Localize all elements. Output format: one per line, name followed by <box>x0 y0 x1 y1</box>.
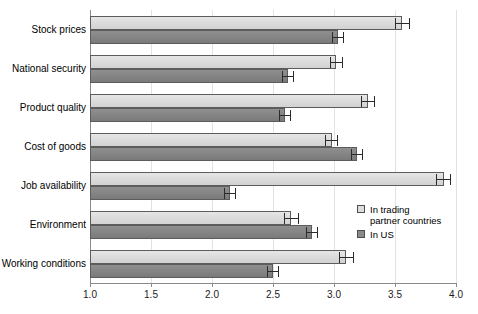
x-tick <box>395 283 396 287</box>
bar <box>90 94 368 108</box>
bar <box>90 186 230 200</box>
legend-swatch-icon <box>357 230 365 238</box>
x-tick-label: 3.5 <box>388 289 402 300</box>
x-tick <box>90 283 91 287</box>
category-label: Stock prices <box>0 24 86 35</box>
error-bar <box>224 188 236 199</box>
bar <box>90 147 357 161</box>
x-tick <box>334 283 335 287</box>
error-bar <box>332 32 344 43</box>
x-tick-label: 1.5 <box>144 289 158 300</box>
bar <box>90 225 312 239</box>
error-bar <box>306 227 318 238</box>
bar <box>90 16 402 30</box>
bar <box>90 250 346 264</box>
legend-label: In trading partner countries <box>357 204 441 226</box>
bar-chart: 1.01.52.02.53.03.54.0 Stock pricesNation… <box>0 0 478 314</box>
category-label: Job availability <box>0 180 86 191</box>
x-tick-label: 3.0 <box>327 289 341 300</box>
x-tick <box>212 283 213 287</box>
category-label: National security <box>0 63 86 74</box>
x-tick-label: 1.0 <box>83 289 97 300</box>
bar <box>90 69 288 83</box>
x-tick <box>273 283 274 287</box>
error-bar <box>339 252 354 263</box>
category-label: Working conditions <box>0 258 86 269</box>
category-label: Environment <box>0 219 86 230</box>
bar <box>90 108 285 122</box>
x-tick <box>151 283 152 287</box>
legend: In trading partner countries In US <box>357 204 441 243</box>
bar <box>90 55 336 69</box>
error-bar <box>330 57 342 68</box>
x-tick <box>456 283 457 287</box>
legend-label: In US <box>357 229 441 240</box>
error-bar <box>361 96 376 107</box>
x-tick-label: 2.0 <box>205 289 219 300</box>
x-tick-label: 4.0 <box>449 289 463 300</box>
bar <box>90 264 273 278</box>
error-bar <box>279 110 291 121</box>
error-bar <box>282 71 294 82</box>
category-label: Cost of goods <box>0 141 86 152</box>
error-bar <box>351 149 363 160</box>
error-bar <box>436 174 451 185</box>
bar <box>90 211 291 225</box>
error-bar <box>267 266 279 277</box>
bar <box>90 172 444 186</box>
bar <box>90 30 338 44</box>
gridline <box>456 10 457 283</box>
legend-item-trading-partner-countries: In trading partner countries <box>357 204 441 226</box>
x-tick-label: 2.5 <box>266 289 280 300</box>
legend-swatch-icon <box>357 205 365 213</box>
error-bar <box>395 18 410 29</box>
error-bar <box>325 135 337 146</box>
bar <box>90 133 332 147</box>
category-label: Product quality <box>0 102 86 113</box>
error-bar <box>284 213 299 224</box>
legend-item-in-us: In US <box>357 229 441 240</box>
